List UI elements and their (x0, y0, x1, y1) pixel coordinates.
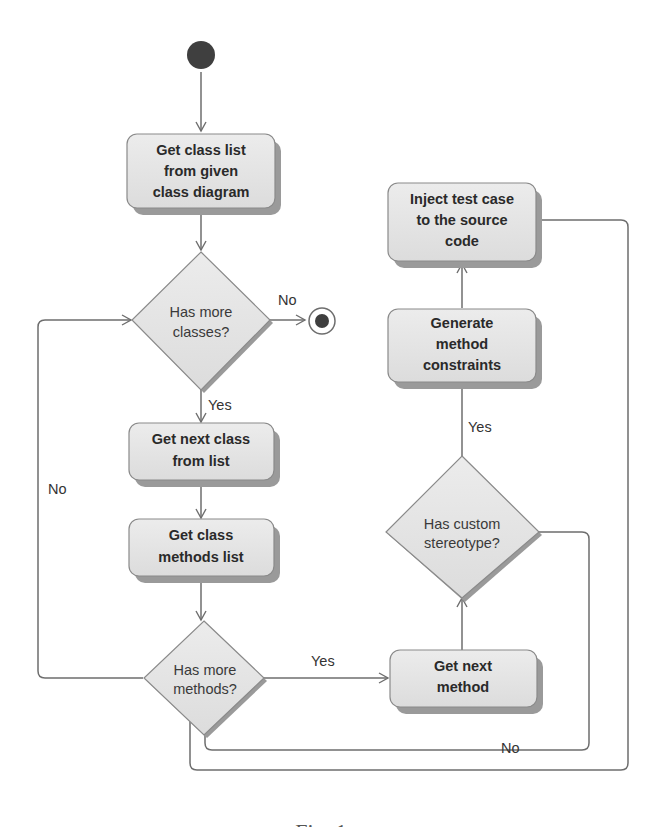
label-line: Get class list (156, 142, 246, 158)
decision-has-more-methods: Has more methods? (144, 621, 267, 738)
label-line: Has custom (424, 516, 501, 532)
action-get-class-list: Get class list from given class diagram (127, 134, 281, 215)
label-line: classes? (173, 324, 229, 340)
label-line: from list (172, 453, 229, 469)
edge-label-classes-no: No (278, 292, 297, 308)
label-line: methods? (173, 681, 237, 697)
edge-label-stereotype-no: No (501, 740, 520, 756)
label-line: Inject test case (410, 191, 514, 207)
edge-label-methods-no: No (48, 481, 67, 497)
edge-label-stereotype-yes: Yes (468, 419, 492, 435)
label-line: Get next (434, 658, 492, 674)
initial-node (187, 41, 215, 69)
label-line: Has more (174, 662, 237, 678)
label-line: Get class (169, 527, 234, 543)
final-node (309, 308, 335, 334)
action-get-next-class: Get next class from list (129, 423, 280, 487)
label-line: code (445, 233, 479, 249)
label-line: Get next class (152, 431, 250, 447)
label-line: stereotype? (424, 535, 500, 551)
action-inject-test-case: Inject test case to the source code (388, 183, 542, 268)
label-line: from given (164, 163, 238, 179)
label-line: Generate (431, 315, 494, 331)
label-line: to the source (416, 212, 507, 228)
decision-has-more-classes: Has more classes? (132, 252, 273, 393)
edge-label-classes-yes: Yes (208, 397, 232, 413)
decision-has-custom-stereotype: Has custom stereotype? (386, 456, 542, 602)
action-get-next-method: Get next method (390, 650, 543, 714)
action-get-class-methods-list: Get class methods list (129, 519, 280, 583)
label-line: method (436, 336, 488, 352)
edge-label-methods-yes: Yes (311, 653, 335, 669)
label-line: method (437, 679, 489, 695)
action-generate-method-constraints: Generate method constraints (388, 309, 542, 389)
edge-methods-no-to-has-more-classes (38, 320, 143, 678)
figure-caption: Fig. 1 ... (0, 812, 664, 827)
activity-diagram: Get class list from given class diagram … (0, 0, 664, 827)
label-line: methods list (158, 549, 244, 565)
label-line: Has more (170, 304, 233, 320)
label-line: class diagram (153, 184, 250, 200)
label-line: constraints (423, 357, 501, 373)
